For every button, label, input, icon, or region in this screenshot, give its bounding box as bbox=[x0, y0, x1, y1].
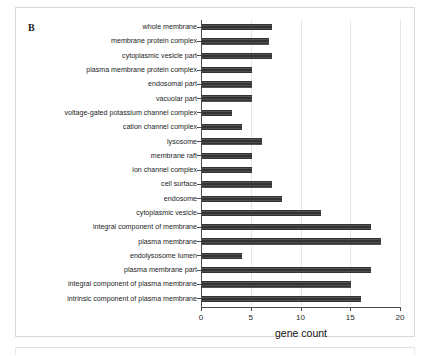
bar[interactable] bbox=[202, 138, 262, 144]
bar-row[interactable]: cell surface bbox=[0, 177, 431, 191]
bar-row[interactable]: membrane raft bbox=[0, 149, 431, 163]
category-label: intrinsic component of plasma membrane bbox=[0, 295, 197, 303]
bar[interactable] bbox=[202, 24, 272, 30]
bar-row[interactable]: plasma membrane protein complex bbox=[0, 63, 431, 77]
y-tick-mark bbox=[197, 213, 201, 214]
category-label: membrane raft bbox=[0, 152, 197, 160]
y-tick-mark bbox=[197, 55, 201, 56]
category-label: voltage-gated potassium channel complex bbox=[0, 109, 197, 117]
x-tick-mark bbox=[201, 307, 202, 311]
category-label: membrane protein complex bbox=[0, 37, 197, 45]
category-label: endolysosome lumen bbox=[0, 252, 197, 260]
bar-row[interactable]: voltage-gated potassium channel complex bbox=[0, 106, 431, 120]
bar-row[interactable]: integral component of plasma membrane bbox=[0, 277, 431, 291]
bar[interactable] bbox=[202, 210, 321, 216]
y-tick-mark bbox=[197, 112, 201, 113]
bar[interactable] bbox=[202, 95, 252, 101]
bar-row[interactable]: membrane protein complex bbox=[0, 34, 431, 48]
bar-row[interactable]: vacuolar part bbox=[0, 91, 431, 105]
bar[interactable] bbox=[202, 67, 252, 73]
bar[interactable] bbox=[202, 167, 252, 173]
y-tick-mark bbox=[197, 27, 201, 28]
y-tick-mark bbox=[197, 98, 201, 99]
category-label: plasma membrane bbox=[0, 238, 197, 246]
bar-row[interactable]: endosomal part bbox=[0, 77, 431, 91]
y-tick-mark bbox=[197, 227, 201, 228]
bar-row[interactable]: cation channel complex bbox=[0, 120, 431, 134]
bar[interactable] bbox=[202, 153, 252, 159]
y-tick-mark bbox=[197, 255, 201, 256]
x-tick-mark bbox=[400, 307, 401, 311]
bar[interactable] bbox=[202, 110, 232, 116]
bar-row[interactable]: endosome bbox=[0, 192, 431, 206]
bar[interactable] bbox=[202, 267, 371, 273]
category-label: cation channel complex bbox=[0, 123, 197, 131]
category-label: vacuolar part bbox=[0, 95, 197, 103]
figure-root: B whole membranemembrane protein complex… bbox=[0, 0, 431, 356]
category-label: cytoplasmic vesicle part bbox=[0, 52, 197, 60]
category-label: integral component of membrane bbox=[0, 223, 197, 231]
bar-row[interactable]: endolysosome lumen bbox=[0, 249, 431, 263]
x-tick-label: 0 bbox=[186, 313, 216, 322]
bar[interactable] bbox=[202, 196, 282, 202]
gene-count-bar-chart: whole membranemembrane protein complexcy… bbox=[0, 0, 431, 356]
x-tick-label: 10 bbox=[286, 313, 316, 322]
category-label: cell surface bbox=[0, 180, 197, 188]
bar[interactable] bbox=[202, 253, 242, 259]
category-label: cytoplasmic vesicle bbox=[0, 209, 197, 217]
bar[interactable] bbox=[202, 124, 242, 130]
y-tick-mark bbox=[197, 241, 201, 242]
bar[interactable] bbox=[202, 224, 371, 230]
category-label: plasma membrane protein complex bbox=[0, 66, 197, 74]
x-tick-mark bbox=[251, 307, 252, 311]
bar[interactable] bbox=[202, 296, 361, 302]
category-label: plasma membrane part bbox=[0, 266, 197, 274]
x-tick-mark bbox=[350, 307, 351, 311]
category-label: ion channel complex bbox=[0, 166, 197, 174]
category-label: integral component of plasma membrane bbox=[0, 280, 197, 288]
bar-row[interactable]: cytoplasmic vesicle part bbox=[0, 49, 431, 63]
bar-row[interactable]: ion channel complex bbox=[0, 163, 431, 177]
bar[interactable] bbox=[202, 238, 381, 244]
y-tick-mark bbox=[197, 198, 201, 199]
y-tick-mark bbox=[197, 70, 201, 71]
bar-row[interactable]: integral component of membrane bbox=[0, 220, 431, 234]
bar-row[interactable]: intrinsic component of plasma membrane bbox=[0, 292, 431, 306]
category-label: endosomal part bbox=[0, 80, 197, 88]
x-axis-title: gene count bbox=[201, 327, 401, 339]
bar-row[interactable]: cytoplasmic vesicle bbox=[0, 206, 431, 220]
y-tick-mark bbox=[197, 155, 201, 156]
bar-row[interactable]: lysosome bbox=[0, 134, 431, 148]
y-tick-mark bbox=[197, 141, 201, 142]
y-tick-mark bbox=[197, 84, 201, 85]
bar-rows: whole membranemembrane protein complexcy… bbox=[0, 20, 431, 306]
bar[interactable] bbox=[202, 181, 272, 187]
category-label: whole membrane bbox=[0, 23, 197, 31]
bar[interactable] bbox=[202, 38, 269, 44]
bar-row[interactable]: plasma membrane part bbox=[0, 263, 431, 277]
x-tick-mark bbox=[301, 307, 302, 311]
y-tick-mark bbox=[197, 184, 201, 185]
x-tick-label: 5 bbox=[236, 313, 266, 322]
y-tick-mark bbox=[197, 298, 201, 299]
category-label: lysosome bbox=[0, 138, 197, 146]
bar[interactable] bbox=[202, 53, 272, 59]
bar-row[interactable]: plasma membrane bbox=[0, 234, 431, 248]
bar[interactable] bbox=[202, 81, 252, 87]
y-tick-mark bbox=[197, 270, 201, 271]
x-tick-label: 20 bbox=[385, 313, 415, 322]
y-tick-mark bbox=[197, 41, 201, 42]
y-tick-mark bbox=[197, 170, 201, 171]
bar[interactable] bbox=[202, 281, 351, 287]
bar-row[interactable]: whole membrane bbox=[0, 20, 431, 34]
category-label: endosome bbox=[0, 195, 197, 203]
y-tick-mark bbox=[197, 284, 201, 285]
x-tick-label: 15 bbox=[335, 313, 365, 322]
y-tick-mark bbox=[197, 127, 201, 128]
